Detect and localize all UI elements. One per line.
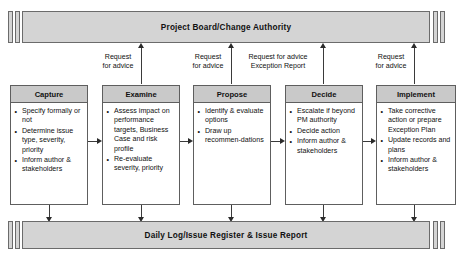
escalation-line-3 <box>323 48 324 84</box>
list-item: Specify formally or not <box>14 107 85 126</box>
process-diagram: Project Board/Change Authority Request f… <box>0 0 464 258</box>
process-box-implement[interactable]: Implement Take corrective action or prep… <box>376 85 456 205</box>
top-lane-label: Project Board/Change Authority <box>161 23 291 32</box>
bottom-lane-right-cap-outer <box>440 221 445 249</box>
process-bullets-propose: Identify & evaluate options Draw up reco… <box>197 107 268 146</box>
process-header-capture: Capture <box>11 86 87 103</box>
process-body-examine: Assess impact on performance targets, Bu… <box>103 103 179 204</box>
flow-arrow-propose-decide <box>280 138 285 144</box>
top-lane-project-board: Project Board/Change Authority <box>22 11 430 43</box>
bottom-lane-left-cap-inner <box>15 221 20 249</box>
top-lane-left-cap-inner <box>15 11 20 43</box>
process-header-propose: Propose <box>194 86 270 103</box>
process-bullets-examine: Assess impact on performance targets, Bu… <box>106 107 177 174</box>
top-lane-right-cap-inner <box>433 11 438 43</box>
escalation-line-4 <box>414 48 415 84</box>
list-item: Inform author & stakeholders <box>14 156 85 175</box>
process-header-implement: Implement <box>377 86 455 103</box>
process-title-examine: Examine <box>125 90 156 99</box>
bottom-lane-left-cap-outer <box>8 221 13 249</box>
escalation-arrow-2 <box>228 43 234 48</box>
escalation-arrow-4 <box>411 43 417 48</box>
list-item: Assess impact on performance targets, Bu… <box>106 107 177 154</box>
list-item: Escalate if beyond PM authority <box>289 107 360 126</box>
process-title-capture: Capture <box>35 90 64 99</box>
flow-arrow-examine-propose <box>188 138 193 144</box>
escalation-arrow-3 <box>320 43 326 48</box>
list-item: Update records and plans <box>380 136 453 155</box>
list-item: Inform author & stakeholders <box>380 156 453 175</box>
list-item: Determine issue type, severity, priority <box>14 127 85 155</box>
list-item: Take corrective action or prepare Except… <box>380 107 453 135</box>
escalation-line-1 <box>141 48 142 84</box>
list-item: Identify & evaluate options <box>197 107 268 126</box>
escalation-label-1: Request for advice <box>98 53 138 72</box>
process-bullets-implement: Take corrective action or prepare Except… <box>380 107 453 175</box>
escalation-label-4: Request for advice <box>371 53 411 72</box>
flow-arrow-capture-examine <box>97 138 102 144</box>
process-box-decide[interactable]: Decide Escalate if beyond PM authority D… <box>285 85 363 205</box>
list-item: Decide action <box>289 127 360 136</box>
escalation-arrow-1 <box>138 43 144 48</box>
flow-arrow-decide-implement <box>371 138 376 144</box>
process-body-decide: Escalate if beyond PM authority Decide a… <box>286 103 362 204</box>
process-box-examine[interactable]: Examine Assess impact on performance tar… <box>102 85 180 205</box>
list-item: Re-evaluate severity, priority <box>106 155 177 174</box>
process-title-propose: Propose <box>217 90 247 99</box>
process-header-decide: Decide <box>286 86 362 103</box>
escalation-line-2 <box>231 48 232 84</box>
process-body-propose: Identify & evaluate options Draw up reco… <box>194 103 270 204</box>
escalation-label-2: Request for advice <box>188 53 228 72</box>
process-title-implement: Implement <box>397 90 435 99</box>
top-lane-left-cap-outer <box>8 11 13 43</box>
list-item: Draw up recommen-dations <box>197 127 268 146</box>
process-box-capture[interactable]: Capture Specify formally or not Determin… <box>10 85 88 205</box>
process-box-propose[interactable]: Propose Identify & evaluate options Draw… <box>193 85 271 205</box>
escalation-label-3: Request for advice Exception Report <box>237 53 319 72</box>
list-item: Inform author & stakeholders <box>289 137 360 156</box>
process-bullets-decide: Escalate if beyond PM authority Decide a… <box>289 107 360 156</box>
bottom-lane-issue-register: Daily Log/Issue Register & Issue Report <box>22 221 430 249</box>
process-body-implement: Take corrective action or prepare Except… <box>377 103 455 204</box>
bottom-lane-right-cap-inner <box>433 221 438 249</box>
process-header-examine: Examine <box>103 86 179 103</box>
process-body-capture: Specify formally or not Determine issue … <box>11 103 87 204</box>
top-lane-right-cap-outer <box>440 11 445 43</box>
process-bullets-capture: Specify formally or not Determine issue … <box>14 107 85 175</box>
process-title-decide: Decide <box>312 90 337 99</box>
bottom-lane-label: Daily Log/Issue Register & Issue Report <box>145 231 308 240</box>
